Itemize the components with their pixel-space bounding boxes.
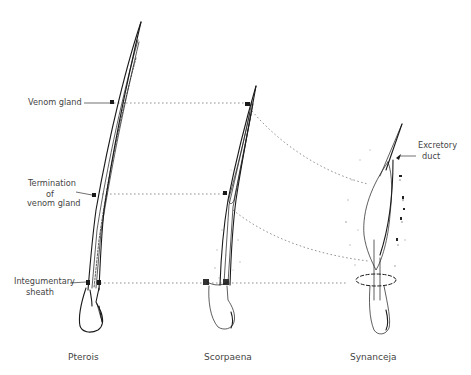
label-termination-line1: Termination <box>27 178 76 188</box>
label-excretory-line1: Excretory <box>418 140 457 150</box>
spine-synanceja <box>345 124 406 334</box>
guide-termination-to-synanceja <box>233 210 368 261</box>
annotation-excretory-duct: Excretory duct <box>400 140 457 161</box>
caption-scorpaena: Scorpaena <box>204 352 252 362</box>
annotation-venom-gland: Venom gland <box>28 97 110 107</box>
spine-scorpaena <box>203 86 256 329</box>
spine-pterois <box>79 22 141 332</box>
label-integumentary-line1: Integumentary <box>14 276 75 286</box>
caption-pterois: Pterois <box>68 352 99 362</box>
annotation-integumentary-sheath: Integumentary sheath <box>14 276 86 297</box>
caption-synanceja: Synanceja <box>350 352 396 362</box>
label-integumentary-line2: sheath <box>26 287 54 297</box>
label-excretory-line2: duct <box>422 151 441 161</box>
label-venom-gland: Venom gland <box>28 97 82 107</box>
guide-venom-gland-to-synanceja <box>252 111 368 184</box>
label-termination-line3: venom gland <box>27 198 81 208</box>
venom-spine-diagram: Venom gland Termination of venom gland I… <box>0 0 471 375</box>
annotation-termination: Termination of venom gland <box>27 178 92 208</box>
